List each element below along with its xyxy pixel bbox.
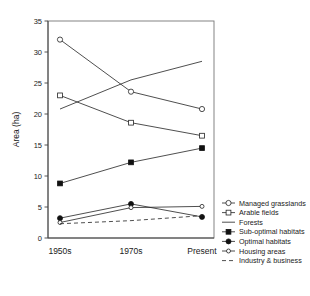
data-point: [129, 160, 134, 165]
series-line: [60, 61, 202, 109]
legend-marker: [226, 200, 231, 205]
legend-marker: [227, 249, 231, 253]
data-point: [200, 146, 205, 151]
series-line: [60, 40, 202, 109]
series-group: [57, 37, 204, 225]
legend-label: Optimal habitats: [239, 237, 291, 246]
data-point: [58, 181, 63, 186]
legend-marker: [226, 210, 231, 215]
y-tick-label: 15: [34, 141, 42, 150]
y-tick-label: 20: [34, 110, 42, 119]
data-point: [200, 133, 205, 138]
data-point: [128, 89, 133, 94]
series-sub-optimal-habitats: [58, 146, 205, 186]
legend-item: Sub-optimal habitats: [222, 227, 305, 236]
y-tick-label: 5: [38, 203, 42, 212]
data-point: [129, 206, 133, 210]
legend-item: Housing areas: [222, 247, 286, 256]
legend-label: Sub-optimal habitats: [239, 227, 305, 236]
x-axis-labels: 1950s1970sPresent: [48, 246, 217, 256]
y-tick-label: 35: [34, 17, 42, 26]
legend-label: Arable fields: [239, 208, 279, 217]
chart-figure: 05101520253035Area (ha)1950s1970sPresent…: [0, 0, 310, 296]
x-tick-label: Present: [187, 246, 217, 256]
y-tick-label: 25: [34, 79, 42, 88]
legend-label: Industry & business: [239, 256, 302, 265]
x-tick-label: 1970s: [119, 246, 142, 256]
y-axis-title: Area (ha): [11, 112, 21, 148]
legend-marker: [226, 229, 231, 234]
data-point: [57, 37, 62, 42]
data-point: [58, 216, 63, 221]
y-axis-ticks: 05101520253035: [34, 17, 48, 243]
series-optimal-habitats: [58, 201, 205, 220]
legend-item: Industry & business: [222, 256, 302, 265]
area-change-line-chart: 05101520253035Area (ha)1950s1970sPresent…: [0, 0, 310, 296]
legend-label: Managed grasslands: [239, 199, 306, 208]
series-line: [60, 95, 202, 135]
legend-label: Housing areas: [239, 247, 286, 256]
series-forests: [60, 61, 202, 109]
legend: Managed grasslandsArable fieldsForestsSu…: [222, 199, 306, 266]
y-tick-label: 0: [38, 234, 42, 243]
legend-item: Managed grasslands: [222, 199, 306, 208]
legend-marker: [226, 239, 231, 244]
series-arable-fields: [58, 93, 205, 138]
data-point: [58, 93, 63, 98]
data-point: [200, 204, 204, 208]
data-point: [199, 106, 204, 111]
legend-label: Forests: [239, 218, 263, 227]
data-point: [129, 120, 134, 125]
y-tick-label: 30: [34, 48, 42, 57]
legend-item: Optimal habitats: [222, 237, 291, 246]
series-line: [60, 216, 202, 224]
legend-item: Arable fields: [222, 208, 279, 217]
y-tick-label: 10: [34, 172, 42, 181]
series-industry-business: [60, 216, 202, 224]
data-point: [200, 214, 205, 219]
series-managed-grasslands: [57, 37, 204, 112]
series-line: [60, 148, 202, 183]
x-tick-label: 1950s: [48, 246, 71, 256]
legend-item: Forests: [222, 218, 263, 227]
